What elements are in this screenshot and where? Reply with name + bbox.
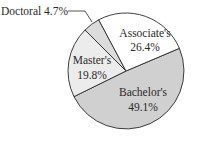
bachelors-value: 49.1% bbox=[128, 101, 158, 113]
doctoral-leader-line bbox=[68, 11, 92, 22]
associates-label: Associate's bbox=[119, 27, 171, 39]
pie-chart: Doctoral 4.7%Associate's26.4%Master's19.… bbox=[0, 0, 199, 146]
bachelors-label: Bachelor's bbox=[119, 86, 168, 98]
masters-label: Master's bbox=[73, 54, 112, 66]
doctoral-label: Doctoral 4.7% bbox=[1, 5, 68, 17]
masters-value: 19.8% bbox=[77, 69, 107, 81]
associates-value: 26.4% bbox=[130, 41, 160, 53]
